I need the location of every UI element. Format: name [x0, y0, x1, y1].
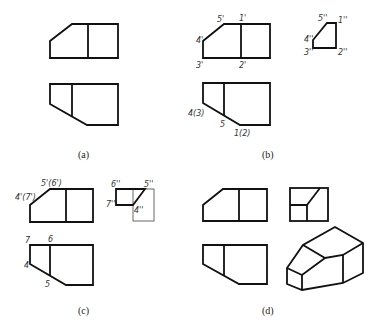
label-2dprime: 2'' — [338, 48, 348, 57]
front-view-a — [50, 24, 118, 58]
label-4-3: 4(3) — [188, 109, 204, 118]
top-view-a — [50, 84, 118, 125]
top-view-b — [203, 83, 270, 125]
top-view-d — [203, 245, 267, 284]
label-6: 6 — [48, 235, 53, 244]
isometric-ridge — [303, 243, 363, 258]
front-view-b — [203, 24, 270, 58]
label-6dprime: 6'' — [111, 180, 121, 189]
label-7dprime: 7'' — [106, 200, 116, 209]
label-3dprime: 3'' — [304, 48, 314, 57]
side-view-c-outline — [133, 189, 154, 221]
label-5dprime-c: 5'' — [144, 180, 154, 189]
label-5: 5 — [220, 120, 225, 129]
side-view-b — [313, 23, 336, 48]
label-4prime-7prime: 4'(7') — [15, 193, 36, 202]
label-1dprime: 1'' — [338, 16, 348, 25]
panel-a: (a) — [50, 24, 118, 161]
label-7: 7 — [25, 236, 31, 245]
label-5dprime: 5'' — [318, 14, 328, 23]
label-1-2: 1(2) — [234, 129, 250, 138]
isometric-view-d — [287, 227, 363, 290]
panel-c: 5'(6') 4'(7') 6'' 5'' 7'' 4'' 7 6 4 5 (c… — [15, 179, 154, 317]
top-view-c — [30, 245, 93, 285]
side-view-d-slope — [307, 188, 320, 205]
label-5prime-6prime: 5'(6') — [41, 179, 62, 188]
caption-a: (a) — [78, 149, 89, 161]
label-4dprime: 4'' — [304, 35, 314, 44]
caption-b: (b) — [262, 149, 274, 161]
label-1prime: 1' — [239, 14, 246, 23]
caption-c: (c) — [78, 305, 89, 317]
side-view-d-inner — [290, 205, 307, 221]
front-view-d — [203, 189, 267, 221]
panel-b: 5' 1' 4' 3' 2' 5'' 1'' 4'' 3'' 2'' 4(3) … — [188, 14, 348, 161]
label-5prime: 5' — [217, 15, 224, 24]
label-3prime: 3' — [196, 61, 203, 70]
panel-d: (d) — [203, 188, 363, 317]
three-view-drawing-figure: (a) 5' 1' 4' 3' 2' 5'' 1'' 4'' 3'' 2'' 4… — [0, 0, 381, 333]
label-2prime: 2' — [239, 61, 246, 70]
caption-d: (d) — [262, 305, 274, 317]
label-5-c: 5 — [45, 280, 50, 289]
front-view-c — [30, 189, 93, 222]
side-view-c-section — [116, 189, 145, 205]
label-4dprime-c: 4'' — [134, 206, 144, 215]
label-4: 4 — [24, 261, 29, 270]
label-4prime: 4' — [196, 36, 203, 45]
